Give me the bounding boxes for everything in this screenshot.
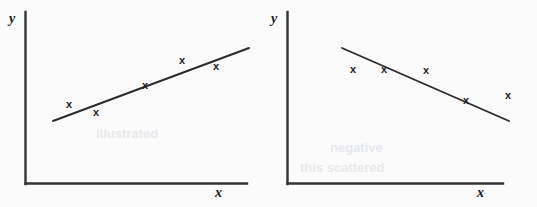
left-axes [26,12,248,184]
data-point-marker: x [505,90,511,101]
left-trend-line [53,48,249,121]
left-scatter-plot: y x x x x x x [0,0,268,207]
data-point-marker: x [66,99,72,110]
data-point-marker: x [93,107,99,118]
data-point-marker: x [213,61,219,72]
right-y-axis-label: y [271,12,277,26]
left-y-axis-label: y [9,12,15,26]
right-axes [288,12,504,184]
right-scatter-plot: y x x x x x x [269,0,537,207]
right-x-axis-label: x [477,186,484,200]
data-point-marker: x [463,95,469,106]
data-point-marker: x [423,65,429,76]
right-plot-graphic [269,0,537,207]
right-trend-line [342,48,509,121]
figure-canvas: illustratedthis scatterednegative y x x … [0,0,537,207]
left-plot-graphic [0,0,268,207]
data-point-marker: x [179,55,185,66]
left-x-axis-label: x [215,186,222,200]
data-point-marker: x [381,64,387,75]
data-point-marker: x [350,64,356,75]
data-point-marker: x [142,80,148,91]
